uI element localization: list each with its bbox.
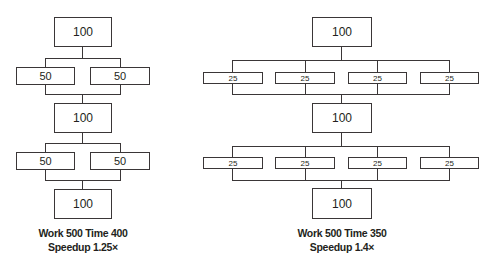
fork-bar bbox=[45, 58, 121, 59]
left-caption: Work 500 Time 400 Speedup 1.25× bbox=[3, 226, 163, 254]
connector bbox=[305, 84, 306, 94]
left-stage1-task-1: 50 bbox=[16, 67, 75, 85]
task-label: 50 bbox=[39, 70, 51, 82]
right-stage2-task-1: 25 bbox=[203, 157, 263, 169]
task-label: 25 bbox=[229, 159, 238, 168]
speedup-label: Speedup 1.25× bbox=[3, 240, 163, 254]
task-label: 25 bbox=[301, 159, 310, 168]
fork-bar bbox=[45, 143, 121, 144]
task-label: 100 bbox=[332, 111, 352, 125]
left-stage2-task-1: 50 bbox=[16, 152, 75, 170]
speedup-label: Speedup 1.4× bbox=[262, 240, 422, 254]
task-label: 50 bbox=[114, 155, 126, 167]
task-label: 100 bbox=[332, 25, 352, 39]
right-stage2-task-2: 25 bbox=[275, 157, 335, 169]
connector bbox=[232, 60, 233, 72]
join-bar bbox=[45, 180, 121, 181]
connector bbox=[45, 85, 46, 94]
connector bbox=[82, 180, 83, 189]
right-stage2-task-3: 25 bbox=[348, 157, 407, 169]
connector bbox=[120, 85, 121, 94]
task-label: 25 bbox=[229, 74, 238, 83]
left-stage1-task-2: 50 bbox=[90, 67, 150, 85]
task-label: 100 bbox=[73, 25, 93, 39]
connector bbox=[305, 146, 306, 157]
connector bbox=[45, 170, 46, 180]
connector bbox=[305, 60, 306, 72]
connector bbox=[82, 47, 83, 58]
connector bbox=[449, 146, 450, 157]
fork-bar bbox=[232, 146, 450, 147]
connector bbox=[120, 170, 121, 180]
left-middle-task: 100 bbox=[54, 103, 112, 133]
connector bbox=[341, 94, 342, 103]
left-bottom-task: 100 bbox=[54, 189, 112, 219]
connector bbox=[449, 169, 450, 180]
connector bbox=[120, 58, 121, 67]
connector bbox=[232, 169, 233, 180]
right-stage1-task-2: 25 bbox=[275, 72, 335, 84]
right-stage1-task-3: 25 bbox=[348, 72, 407, 84]
right-stage2-task-4: 25 bbox=[420, 157, 479, 169]
right-caption: Work 500 Time 350 Speedup 1.4× bbox=[262, 226, 422, 254]
left-stage2-task-2: 50 bbox=[90, 152, 150, 170]
connector bbox=[232, 84, 233, 94]
connector bbox=[45, 58, 46, 67]
right-stage1-task-4: 25 bbox=[420, 72, 479, 84]
task-label: 100 bbox=[73, 197, 93, 211]
connector bbox=[377, 84, 378, 94]
join-bar bbox=[45, 94, 121, 95]
task-label: 25 bbox=[445, 74, 454, 83]
connector bbox=[377, 60, 378, 72]
task-label: 50 bbox=[39, 155, 51, 167]
connector bbox=[377, 169, 378, 180]
task-label: 25 bbox=[445, 159, 454, 168]
connector bbox=[377, 146, 378, 157]
right-top-task: 100 bbox=[312, 17, 372, 47]
task-label: 25 bbox=[373, 159, 382, 168]
connector bbox=[305, 169, 306, 180]
right-bottom-task: 100 bbox=[312, 188, 372, 219]
task-label: 50 bbox=[114, 70, 126, 82]
right-middle-task: 100 bbox=[312, 103, 372, 133]
connector bbox=[449, 84, 450, 94]
task-label: 100 bbox=[332, 197, 352, 211]
connector bbox=[82, 133, 83, 143]
connector bbox=[120, 143, 121, 152]
task-label: 25 bbox=[301, 74, 310, 83]
connector bbox=[45, 143, 46, 152]
left-top-task: 100 bbox=[54, 17, 112, 47]
connector bbox=[341, 133, 342, 146]
connector bbox=[232, 146, 233, 157]
right-stage1-task-1: 25 bbox=[203, 72, 263, 84]
task-label: 25 bbox=[373, 74, 382, 83]
connector bbox=[82, 94, 83, 103]
connector bbox=[341, 180, 342, 188]
task-label: 100 bbox=[73, 111, 93, 125]
work-time-label: Work 500 Time 400 bbox=[3, 226, 163, 240]
fork-bar bbox=[232, 60, 450, 61]
connector bbox=[449, 60, 450, 72]
connector bbox=[341, 47, 342, 60]
work-time-label: Work 500 Time 350 bbox=[262, 226, 422, 240]
